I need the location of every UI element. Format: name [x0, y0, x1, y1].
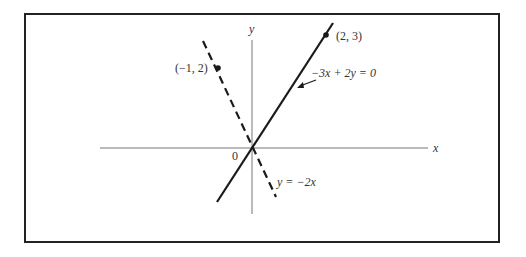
- linear-equations-diagram: x y 0 (2, 3) −3x + 2y = 0 (−1, 2) y = −2…: [0, 0, 526, 257]
- point-label-2-3: (2, 3): [336, 29, 362, 43]
- point-2-3: [323, 32, 329, 38]
- arrow-head-icon: [297, 82, 304, 88]
- point-label-neg1-2: (−1, 2): [175, 61, 208, 75]
- equation-label-solid: −3x + 2y = 0: [311, 66, 376, 80]
- equation-label-dashed: y = −2x: [276, 175, 317, 189]
- dashed-line: [203, 41, 276, 197]
- figure-frame: [25, 14, 499, 242]
- y-axis-label: y: [248, 22, 255, 36]
- origin-label: 0: [232, 149, 238, 163]
- point-neg1-2: [215, 65, 221, 71]
- x-axis-label: x: [432, 141, 439, 155]
